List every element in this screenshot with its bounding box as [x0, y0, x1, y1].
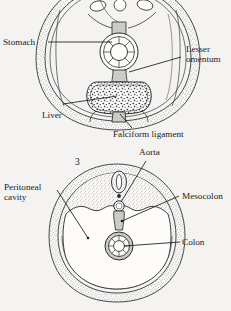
- lesser-omentum-structure: [112, 70, 127, 82]
- vertebral-canal: [116, 175, 121, 190]
- lower-panel: 3: [4, 147, 223, 302]
- label-colon: Colon: [182, 237, 205, 247]
- label-peritoneal-cavity-line1: Peritoneal: [4, 182, 42, 192]
- label-lesser-omentum-line2: omentum: [186, 54, 221, 64]
- vessel-right-oval: [136, 0, 154, 12]
- label-aorta: Aorta: [139, 147, 160, 157]
- anatomical-figure: Stomach Lesser omentum Liver Falciform l…: [0, 0, 231, 311]
- spinal-vessel-dot: [117, 194, 121, 198]
- vessel-center-circle: [114, 0, 126, 11]
- stomach-lumen: [111, 44, 128, 61]
- label-lesser-omentum-line1: Lesser: [186, 44, 210, 54]
- label-falciform-ligament: Falciform ligament: [113, 129, 184, 139]
- vessel-left-oval: [89, 0, 107, 13]
- liver-outline: [87, 82, 151, 114]
- vessel-strand-left: [88, 14, 112, 28]
- vertebra-structure: [112, 171, 127, 193]
- label-liver: Liver: [42, 110, 62, 120]
- right-peritoneal-reflection-inner: [166, 14, 172, 100]
- colon-lumen: [114, 241, 125, 252]
- label-mesocolon: Mesocolon: [182, 191, 223, 201]
- label-stomach: Stomach: [3, 37, 36, 47]
- vessel-strand-right: [128, 12, 156, 28]
- leader-dot-peritoneal: [87, 237, 90, 240]
- stomach-organ: [100, 33, 138, 71]
- leader-dot-mesocolon: [121, 220, 124, 223]
- figure-number: 3: [75, 157, 80, 167]
- aorta-lumen: [116, 203, 122, 209]
- falciform-ligament-structure: [112, 112, 126, 122]
- liver-organ: [87, 82, 151, 114]
- upper-panel: Stomach Lesser omentum Liver Falciform l…: [3, 0, 221, 139]
- label-peritoneal-cavity-line2: cavity: [4, 192, 27, 202]
